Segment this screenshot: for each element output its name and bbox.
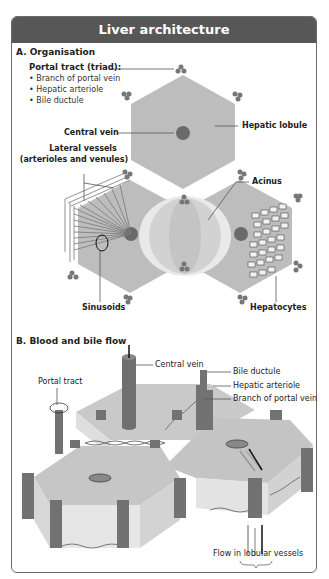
central-vein-b-label: Central vein	[155, 360, 204, 369]
central-vein-icon	[176, 126, 190, 140]
branch-portal-vein-label: Branch of portal vein	[233, 394, 317, 403]
portal-tract-item: Bile ductule	[29, 95, 120, 106]
portal-tract-label: Portal tract (triad):	[29, 62, 121, 72]
portal-tract-item: Hepatic arteriole	[29, 84, 120, 95]
hepatic-arteriole-label: Hepatic arteriole	[233, 381, 300, 390]
portal-tract-b-label: Portal tract	[38, 377, 82, 386]
flow-lobular-vessels-label: Flow in lobular vessels	[213, 549, 303, 558]
lateral-vessels-sub-label: (arterioles and venules)	[10, 155, 138, 164]
lateral-vessels-label: Lateral vessels	[18, 144, 148, 153]
portal-tract-item: Branch of portal vein	[29, 73, 120, 84]
bile-ductule-label: Bile ductule	[233, 367, 280, 376]
acinus-label: Acinus	[252, 177, 282, 186]
hepatic-lobule-label: Hepatic lobule	[242, 121, 307, 130]
portal-tract-list: Branch of portal vein Hepatic arteriole …	[29, 73, 120, 106]
section-a-title: A. Organisation	[16, 47, 95, 57]
central-vein-label: Central vein	[64, 128, 119, 137]
section-b-title: B. Blood and bile flow	[16, 336, 126, 346]
hepatocytes-label: Hepatocytes	[250, 303, 307, 312]
sinusoids-label: Sinusoids	[82, 303, 125, 312]
